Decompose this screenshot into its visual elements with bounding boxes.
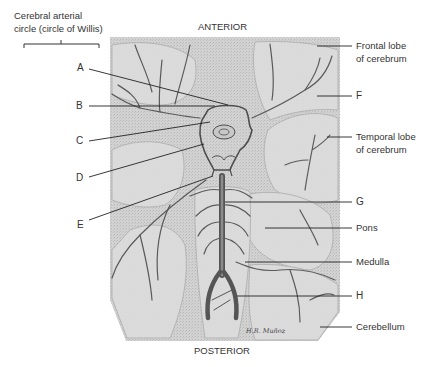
label-medulla: Medulla: [356, 256, 389, 269]
label-e: E: [77, 219, 84, 230]
bracket-label-line1: Cerebral arterial: [14, 10, 103, 23]
label-temporal-lobe: Temporal lobe of cerebrum: [356, 131, 416, 156]
bracket-label: Cerebral arterial circle (circle of Will…: [14, 10, 103, 35]
frontal-lobe-right: [253, 41, 338, 120]
label-d: D: [76, 172, 83, 183]
label-g: G: [356, 196, 364, 207]
pituitary: [213, 125, 235, 139]
anterior-label: ANTERIOR: [198, 21, 247, 34]
label-a: A: [77, 62, 84, 73]
label-c: C: [76, 135, 83, 146]
label-cerebellum: Cerebellum: [356, 321, 405, 334]
temporal-lobe-left: [112, 142, 184, 207]
label-frontal-lobe: Frontal lobe of cerebrum: [356, 40, 407, 65]
illustrator-signature: H.R. Muñoz: [246, 327, 285, 335]
label-b: B: [76, 100, 83, 111]
posterior-label: POSTERIOR: [194, 345, 250, 358]
temporal-lobe-right: [264, 114, 338, 204]
bracket-label-line2: circle (circle of Willis): [14, 23, 103, 36]
label-f: F: [356, 90, 362, 101]
label-pons: Pons: [356, 222, 378, 235]
circle-of-willis-bracket: [24, 40, 99, 48]
label-h: H: [356, 290, 363, 301]
